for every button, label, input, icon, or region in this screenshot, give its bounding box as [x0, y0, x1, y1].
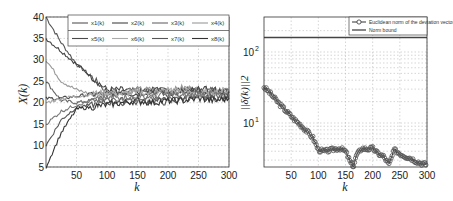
- right-x-axis-label: k: [342, 180, 348, 194]
- x-tick: 300: [419, 170, 436, 181]
- right-plot: 50100150200250300 101102 k ||δ(k)||2 Euc…: [238, 17, 453, 194]
- y-tick-exponent: 2: [255, 45, 259, 52]
- left-y-tick-labels: 510152025303540: [33, 12, 45, 173]
- x-tick: 300: [221, 170, 238, 181]
- right-legend: Euclidean norm of the deviation vectorNo…: [349, 17, 453, 35]
- y-tick: 15: [33, 119, 45, 130]
- y-tick: 20: [33, 97, 45, 108]
- x-tick: 100: [310, 170, 327, 181]
- x-tick: 250: [391, 170, 408, 181]
- left-legend: x1(k)x2(k)x3(k)x4(k)x5(k)x6(k)x7(k)x8(k): [68, 15, 229, 46]
- x-tick: 200: [160, 170, 177, 181]
- y-tick: 25: [33, 76, 45, 87]
- x-tick: 50: [286, 170, 298, 181]
- legend-label: x5(k): [91, 36, 104, 42]
- left-x-tick-labels: 50100150200250300: [71, 170, 238, 181]
- legend-label: x6(k): [131, 36, 144, 42]
- right-y-axis-label: ||δ(k)||2: [238, 75, 251, 110]
- y-tick-exponent: 1: [255, 116, 259, 123]
- x-tick: 200: [364, 170, 381, 181]
- x-tick: 100: [99, 170, 116, 181]
- legend-label: x8(k): [211, 36, 224, 42]
- y-tick: 10: [33, 140, 45, 151]
- y-tick: 5: [38, 162, 44, 173]
- legend-label: x4(k): [211, 20, 224, 26]
- y-tick: 30: [33, 54, 45, 65]
- legend-label: x1(k): [91, 20, 104, 26]
- y-tick: 10: [243, 47, 255, 58]
- left-plot: 50100150200250300 510152025303540 k X(k)…: [16, 12, 238, 195]
- left-x-axis-label: k: [134, 180, 140, 194]
- y-tick: 10: [243, 118, 255, 129]
- right-x-tick-labels: 50100150200250300: [286, 170, 436, 181]
- y-tick: 40: [33, 12, 45, 23]
- y-tick: 35: [33, 33, 45, 44]
- figure: 50100150200250300 510152025303540 k X(k)…: [0, 0, 453, 201]
- legend-label: Norm bound: [369, 27, 397, 33]
- left-y-axis-label: X(k): [16, 84, 30, 106]
- legend-label: x2(k): [131, 20, 144, 26]
- legend-label: Euclidean norm of the deviation vector: [369, 19, 453, 25]
- x-tick: 250: [190, 170, 207, 181]
- legend-label: x3(k): [171, 20, 184, 26]
- x-tick: 50: [71, 170, 83, 181]
- legend-label: x7(k): [171, 36, 184, 42]
